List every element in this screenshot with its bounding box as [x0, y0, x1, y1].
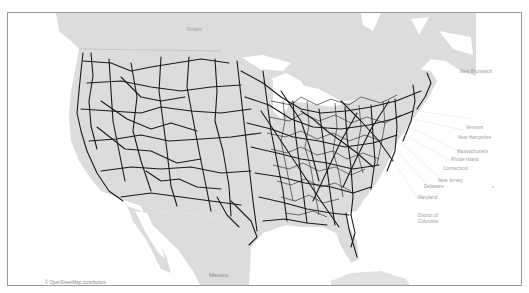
label-maryland: Maryland [418, 195, 437, 200]
label-district-of-columbia-line2: Columbia [418, 219, 438, 224]
label-vermont: Vermont [466, 125, 483, 130]
cuba-landmass [331, 271, 411, 286]
label-new-hampshire: New Hampshire [458, 135, 491, 140]
label-rhode-island: Rhode Island [451, 157, 479, 162]
label-new-jersey: New Jersey [438, 178, 463, 183]
label-mexico: Mexico [209, 272, 229, 278]
map-canvas[interactable] [8, 13, 522, 286]
label-delaware: Delaware [424, 184, 444, 189]
label-massachusetts: Massachusetts [457, 149, 488, 154]
label-ontario: Ontario [187, 27, 202, 32]
label-new-brunswick: New Brunswick [460, 69, 492, 74]
map-frame[interactable]: Ontario New Brunswick Vermont New Hampsh… [7, 12, 522, 286]
label-connecticut: Connecticut [443, 166, 468, 171]
map-marker-dot [492, 186, 494, 188]
map-attribution[interactable]: © OpenStreetMap contributors [45, 280, 106, 285]
label-district-of-columbia-line1: District of [418, 213, 438, 218]
